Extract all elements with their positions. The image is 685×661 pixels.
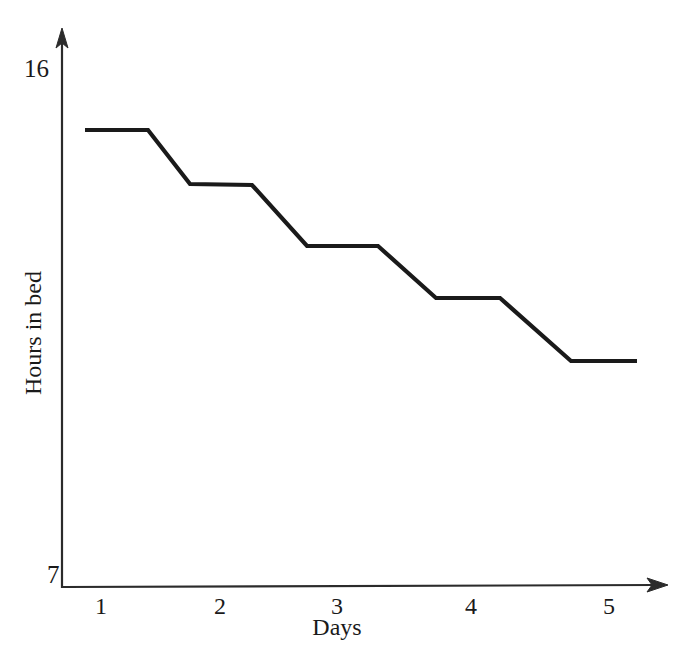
x-axis-tick-label-5: 5 bbox=[589, 594, 629, 618]
line-chart-canvas bbox=[0, 0, 685, 661]
x-axis-tick-label-1: 1 bbox=[81, 594, 121, 618]
x-axis-title: Days bbox=[257, 615, 417, 639]
chart-figure: 16 7 Hours in bed 1 2 3 4 5 Days bbox=[0, 0, 685, 661]
y-axis-tick-label-bottom: 7 bbox=[47, 562, 60, 587]
y-axis-title: Hours in bed bbox=[21, 271, 45, 395]
data-series-line-hours-in-bed bbox=[85, 130, 637, 361]
y-axis-tick-label-top: 16 bbox=[24, 56, 49, 81]
x-axis-tick-label-2: 2 bbox=[200, 594, 240, 618]
x-axis-line bbox=[62, 585, 656, 587]
x-axis-tick-label-4: 4 bbox=[451, 594, 491, 618]
